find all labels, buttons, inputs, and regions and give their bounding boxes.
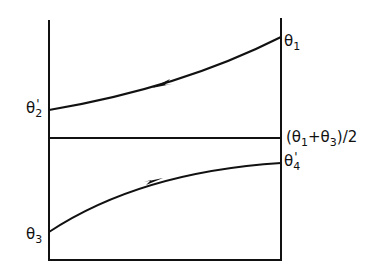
arrow-left-icon [152, 79, 172, 88]
label-mean-theta: (θ1+θ3)/2 [286, 130, 357, 148]
label-theta1: θ1 [284, 34, 300, 52]
label-theta4-prime: θ'4 [284, 154, 301, 169]
label-theta3: θ3 [26, 227, 42, 245]
upper-curve [49, 37, 281, 110]
lower-curve [49, 163, 281, 232]
label-theta2-prime: θ'2 [26, 101, 43, 116]
